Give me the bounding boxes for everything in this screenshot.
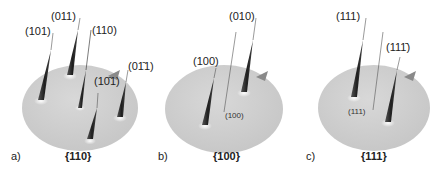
plane-label-c: {111} <box>361 150 387 162</box>
label-100: (100) <box>193 55 219 67</box>
normal-label-b: (100) <box>225 111 244 120</box>
panel-b: (100) (010) (100) b) {100} <box>158 10 283 162</box>
label-10bar1: (10̄1) <box>94 75 120 87</box>
panel-letter-a: a) <box>11 150 21 162</box>
label-101: (101) <box>25 25 51 37</box>
label-110: (110) <box>92 24 117 36</box>
plane-label-a: {110} <box>65 150 92 162</box>
panel-letter-c: c) <box>306 150 315 162</box>
plane-label-b: {100} <box>213 150 241 162</box>
label-010: (010) <box>229 10 255 22</box>
figure-canvas: (101) (011) (110) (10̄1) (01̄1) a) {110}… <box>0 0 448 176</box>
panel-a: (101) (011) (110) (10̄1) (01̄1) a) {110} <box>11 10 154 162</box>
label-11bar1: (111̄) <box>386 41 410 53</box>
normal-label-c: (111) <box>348 107 366 116</box>
label-111: (111) <box>336 10 360 22</box>
panel-letter-b: b) <box>158 150 168 162</box>
panel-c: (111) (111̄) (111) c) {111} <box>306 10 430 162</box>
label-011: (011) <box>51 10 76 22</box>
label-01bar1: (01̄1) <box>128 60 154 72</box>
